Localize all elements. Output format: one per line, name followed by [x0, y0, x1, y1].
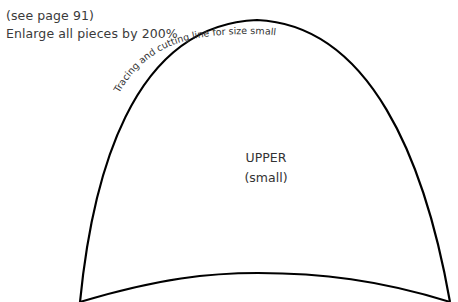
bottom-edge-line: [80, 273, 450, 302]
piece-name-label: UPPER: [216, 150, 316, 165]
piece-size-label: (small): [216, 170, 316, 185]
cutting-line-label: Tracing and cutting line for size small: [111, 25, 277, 95]
